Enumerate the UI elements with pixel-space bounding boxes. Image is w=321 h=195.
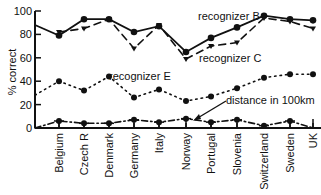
series-line-0 <box>35 16 313 52</box>
data-point <box>131 29 138 36</box>
data-point <box>131 117 137 123</box>
y-tick-label: 40 <box>20 75 32 87</box>
data-point <box>183 49 190 56</box>
x-tick-label: Czech R <box>78 133 90 175</box>
plot-area <box>35 12 316 128</box>
data-point <box>310 27 316 32</box>
data-point <box>183 116 189 122</box>
y-tick-label: 20 <box>20 99 32 111</box>
annotation-recognizer-C: recognizer C <box>199 52 261 64</box>
data-point <box>234 117 240 123</box>
x-tick-label: Belgium <box>53 133 65 173</box>
y-axis-title: % correct <box>6 49 18 95</box>
data-point <box>287 71 293 77</box>
data-point <box>131 95 137 101</box>
series-annotations: recognizer Brecognizer Crecognizer Edist… <box>109 10 315 121</box>
x-tick-label: Germany <box>128 133 140 179</box>
line-chart: 020406080100 BelgiumCzech RDenmarkGerman… <box>0 0 321 195</box>
x-tick-label: Slovenia <box>231 132 243 175</box>
data-point <box>208 35 215 42</box>
data-point <box>81 88 87 94</box>
data-point <box>208 93 214 99</box>
series-line-3 <box>35 119 313 128</box>
data-point <box>183 98 189 104</box>
data-point <box>156 86 162 92</box>
data-point <box>261 75 267 81</box>
data-point <box>310 17 317 24</box>
y-tick-label: 80 <box>20 28 32 40</box>
y-tick-label: 0 <box>26 122 32 134</box>
data-point <box>56 78 62 84</box>
x-tick-label: Italy <box>153 133 165 154</box>
x-tick-label: Norway <box>180 133 192 171</box>
x-axis: BelgiumCzech RDenmarkGermanyItalyNorwayP… <box>35 123 321 190</box>
annotation-recognizer-B: recognizer B <box>198 10 260 22</box>
data-point <box>183 57 189 62</box>
data-point <box>131 46 137 51</box>
x-tick-label: Denmark <box>103 133 115 178</box>
data-point <box>234 85 240 91</box>
data-point <box>234 24 241 31</box>
y-tick-label: 100 <box>14 5 32 17</box>
data-point <box>310 71 316 77</box>
x-tick-label: Sweden <box>284 133 296 173</box>
x-tick-label: Portugal <box>205 133 217 174</box>
x-tick-label: Switzerland <box>258 133 270 190</box>
annotation-distance-in-100km: distance in 100km <box>226 94 315 106</box>
x-tick-label: UK <box>307 132 319 148</box>
y-tick-label: 60 <box>20 52 32 64</box>
data-point <box>81 16 88 23</box>
annotation-recognizer-E: recognizer E <box>109 70 171 82</box>
arrow-icon <box>196 101 226 119</box>
data-point <box>81 27 87 32</box>
